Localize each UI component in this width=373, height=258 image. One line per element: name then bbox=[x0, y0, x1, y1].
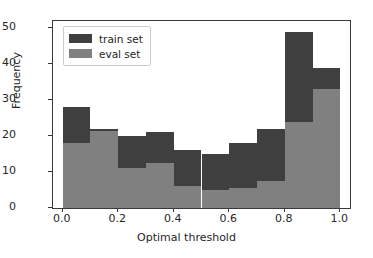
y-axis-label: Frequency bbox=[10, 21, 23, 141]
bar-eval-set-0.5-0.6 bbox=[202, 190, 230, 208]
histogram-figure: 01020304050 0.00.20.40.60.81.0 Frequency… bbox=[0, 0, 373, 258]
x-tick-label: 0.6 bbox=[208, 212, 248, 225]
legend-swatch-train-set bbox=[69, 34, 92, 43]
legend-swatch-eval-set bbox=[69, 49, 92, 58]
y-tick-mark bbox=[48, 207, 52, 208]
legend: train set eval set bbox=[63, 26, 151, 66]
x-tick-label: 1.0 bbox=[319, 212, 359, 225]
x-tick-label: 0.8 bbox=[264, 212, 304, 225]
bar-eval-set-0.0-0.1 bbox=[63, 143, 91, 208]
bar-eval-set-0.7-0.8 bbox=[257, 181, 285, 208]
y-tick-mark bbox=[48, 99, 52, 100]
legend-label-train-set: train set bbox=[99, 33, 143, 45]
x-tick-label: 0.2 bbox=[97, 212, 137, 225]
y-tick-mark bbox=[48, 171, 52, 172]
y-tick-mark bbox=[48, 135, 52, 136]
bar-eval-set-0.2-0.3 bbox=[118, 168, 146, 208]
y-tick-label: 0 bbox=[9, 201, 16, 212]
x-tick-label: 0.0 bbox=[42, 212, 82, 225]
bar-eval-set-0.6-0.7 bbox=[229, 188, 257, 208]
legend-item-train-set: train set bbox=[69, 31, 143, 46]
bar-eval-set-0.1-0.2 bbox=[90, 131, 118, 208]
bar-eval-set-0.9-1.0 bbox=[313, 89, 341, 208]
bar-eval-set-0.8-0.9 bbox=[285, 122, 313, 208]
y-tick-mark bbox=[48, 27, 52, 28]
y-tick-mark bbox=[48, 63, 52, 64]
y-tick-label: 10 bbox=[2, 165, 16, 176]
x-tick-label: 0.4 bbox=[153, 212, 193, 225]
x-axis-label: Optimal threshold bbox=[0, 231, 373, 244]
legend-label-eval-set: eval set bbox=[99, 48, 140, 60]
legend-item-eval-set: eval set bbox=[69, 46, 143, 61]
bar-eval-set-0.3-0.4 bbox=[146, 163, 174, 208]
bar-eval-set-0.4-0.5 bbox=[174, 186, 202, 208]
